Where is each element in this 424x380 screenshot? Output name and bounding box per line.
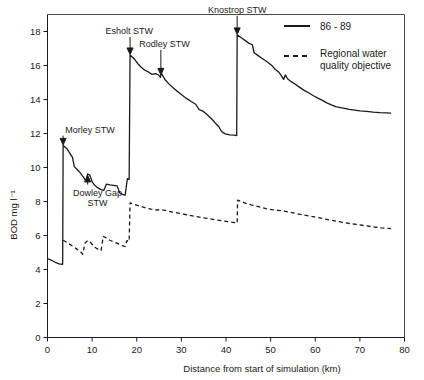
- legend-label-86-89: 86 - 89: [320, 21, 352, 32]
- annotation-label: Dowley Gap: [73, 188, 122, 198]
- y-axis-title: BOD mg l⁻¹: [8, 190, 19, 239]
- y-tick-label: 10: [30, 162, 41, 173]
- y-tick-label: 16: [30, 60, 41, 71]
- annotation-label: Knostrop STW: [208, 5, 267, 15]
- legend-label-regional-objective-line2: quality objective: [320, 60, 392, 71]
- x-tick-label: 10: [87, 344, 98, 355]
- x-tick-label: 20: [131, 344, 142, 355]
- y-tick-label: 18: [30, 26, 41, 37]
- x-tick-label: 50: [265, 344, 276, 355]
- y-tick-label: 6: [35, 230, 40, 241]
- x-tick-label: 40: [221, 344, 232, 355]
- y-tick-label: 2: [35, 298, 40, 309]
- x-tick-label: 80: [399, 344, 410, 355]
- x-axis-title: Distance from start of simulation (km): [183, 363, 340, 374]
- y-tick-label: 12: [30, 128, 41, 139]
- x-tick-label: 30: [176, 344, 187, 355]
- y-tick-label: 8: [35, 196, 40, 207]
- bod-profile-chart: 024681012141618 01020304050607080 Morley…: [0, 0, 424, 380]
- chart-container: 024681012141618 01020304050607080 Morley…: [0, 0, 424, 380]
- y-tick-label: 14: [30, 94, 41, 105]
- y-tick-label: 4: [35, 264, 40, 275]
- annotation-label: STW: [87, 198, 108, 208]
- annotation-label: Esholt STW: [105, 26, 153, 36]
- x-tick-label: 70: [355, 344, 366, 355]
- x-tick-label: 0: [45, 344, 50, 355]
- annotation-label: Morley STW: [65, 125, 115, 135]
- legend-label-regional-objective: Regional water: [320, 48, 387, 59]
- y-tick-label: 0: [35, 332, 40, 343]
- x-tick-label: 60: [310, 344, 321, 355]
- annotation-label: Rodley STW: [139, 39, 190, 49]
